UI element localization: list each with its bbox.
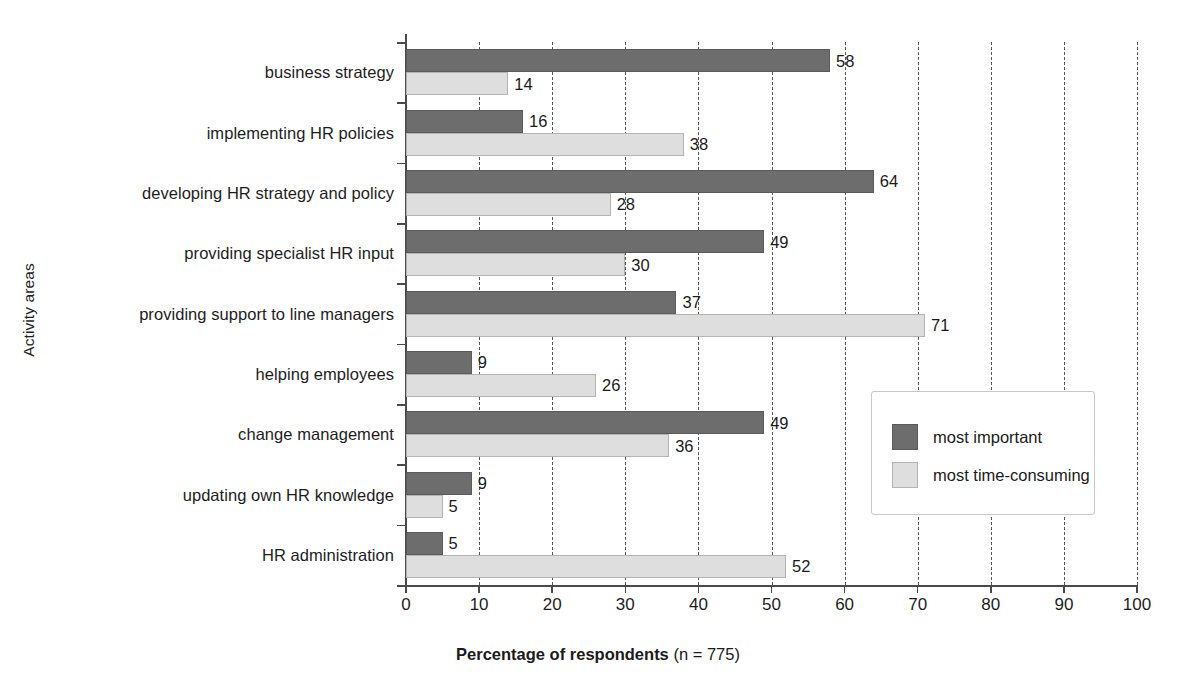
bar-value-label: 9	[478, 474, 487, 493]
bar-value-label: 30	[631, 255, 649, 274]
x-tick-100	[1136, 585, 1138, 593]
x-tick-40	[698, 585, 700, 593]
x-axis-title-text: Percentage of respondents	[456, 645, 669, 663]
x-tick-20	[551, 585, 553, 593]
x-tick-10	[478, 585, 480, 593]
x-tick-label-80: 80	[981, 595, 1000, 615]
category-label: helping employees	[256, 364, 394, 383]
bar	[406, 374, 596, 397]
category-labels: business strategyimplementing HR policie…	[0, 42, 394, 585]
x-tick-label-90: 90	[1054, 595, 1073, 615]
bar	[406, 351, 472, 374]
bar	[406, 411, 764, 434]
legend-item: most important	[892, 418, 1094, 456]
y-tick-8	[397, 525, 406, 527]
bar	[406, 434, 669, 457]
category-label: implementing HR policies	[207, 123, 394, 142]
x-tick-30	[625, 585, 627, 593]
bar-value-label: 36	[675, 436, 693, 455]
bar	[406, 472, 472, 495]
bar-value-label: 5	[449, 497, 458, 516]
bar	[406, 495, 443, 518]
bar-value-label: 71	[931, 316, 949, 335]
x-tick-label-100: 100	[1123, 595, 1151, 615]
bar	[406, 170, 874, 193]
category-label: providing support to line managers	[139, 304, 394, 323]
bar	[406, 253, 625, 276]
y-tick-4	[397, 283, 406, 285]
x-tick-80	[990, 585, 992, 593]
bar	[406, 555, 786, 578]
bar	[406, 193, 611, 216]
x-axis-title-note: (n = 775)	[673, 645, 740, 663]
legend-swatch-important	[892, 424, 918, 450]
x-tick-label-20: 20	[543, 595, 562, 615]
bar-value-label: 28	[617, 195, 635, 214]
category-label: providing specialist HR input	[184, 244, 394, 263]
bar	[406, 49, 830, 72]
bar	[406, 133, 684, 156]
x-tick-label-50: 50	[762, 595, 781, 615]
bar-value-label: 9	[478, 353, 487, 372]
x-tick-label-40: 40	[689, 595, 708, 615]
bar-value-label: 38	[690, 135, 708, 154]
bar-value-label: 26	[602, 376, 620, 395]
category-label: business strategy	[265, 63, 394, 82]
x-tick-label-70: 70	[908, 595, 927, 615]
category-label: HR administration	[262, 545, 394, 564]
bar-value-label: 64	[880, 172, 898, 191]
x-tick-70	[917, 585, 919, 593]
x-tick-label-10: 10	[470, 595, 489, 615]
x-tick-60	[844, 585, 846, 593]
gridline-100	[1137, 42, 1138, 585]
bar	[406, 110, 523, 133]
bar	[406, 291, 676, 314]
legend-label: most time-consuming	[933, 466, 1090, 485]
legend-item: most time-consuming	[892, 456, 1094, 494]
bar	[406, 314, 925, 337]
y-tick-1	[397, 102, 406, 104]
y-tick-0	[397, 42, 406, 44]
bar-value-label: 52	[792, 557, 810, 576]
category-label: updating own HR knowledge	[183, 485, 394, 504]
y-tick-2	[397, 163, 406, 165]
bar-value-label: 58	[836, 51, 854, 70]
legend-label: most important	[933, 428, 1042, 447]
bar	[406, 532, 443, 555]
bar-chart-figure: Activity areas business strategyimplemen…	[0, 0, 1196, 683]
bar-value-label: 49	[770, 232, 788, 251]
x-tick-label-30: 30	[616, 595, 635, 615]
y-tick-3	[397, 223, 406, 225]
x-tick-50	[771, 585, 773, 593]
bar-value-label: 16	[529, 112, 547, 131]
y-tick-6	[397, 404, 406, 406]
bar-value-label: 14	[514, 74, 532, 93]
x-axis-title: Percentage of respondents (n = 775)	[0, 645, 1196, 664]
category-label: change management	[238, 425, 394, 444]
y-tick-7	[397, 464, 406, 466]
legend-swatch-timeconsuming	[892, 462, 918, 488]
x-tick-label-60: 60	[835, 595, 854, 615]
category-label: developing HR strategy and policy	[142, 183, 394, 202]
bar	[406, 72, 508, 95]
chart-legend: most importantmost time-consuming	[871, 391, 1095, 515]
bar-value-label: 5	[449, 534, 458, 553]
y-tick-end	[397, 585, 406, 587]
bar-value-label: 37	[682, 293, 700, 312]
bar-value-label: 49	[770, 413, 788, 432]
x-tick-label-0: 0	[401, 595, 410, 615]
bar	[406, 230, 764, 253]
y-tick-5	[397, 344, 406, 346]
x-tick-90	[1063, 585, 1065, 593]
